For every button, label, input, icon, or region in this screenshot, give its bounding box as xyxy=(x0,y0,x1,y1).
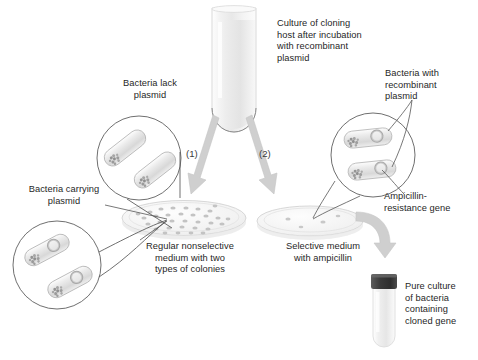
label-ampicillin-resistance-gene: Ampicillin- resistance gene xyxy=(384,191,478,214)
step-label-one: (1) xyxy=(186,148,198,159)
step-label-two: (2) xyxy=(259,148,271,159)
label-nonselective-medium: Regular nonselective medium with two typ… xyxy=(122,241,258,276)
figure-canvas: Culture of cloning host after incubation… xyxy=(0,0,478,360)
label-culture-tube: Culture of cloning host after incubation… xyxy=(277,18,397,64)
label-bacteria-lack-plasmid: Bacteria lack plasmid xyxy=(96,78,204,101)
petri-dish-icon xyxy=(122,201,246,240)
label-pure-culture: Pure culture of bacteria containing clon… xyxy=(405,281,478,327)
label-bacteria-with-recombinant-plasmid: Bacteria with recombinant plasmid xyxy=(385,68,478,103)
culture-vial-icon xyxy=(371,274,397,347)
test-tube-icon xyxy=(212,6,256,132)
label-selective-medium: Selective medium with ampicillin xyxy=(268,241,378,264)
label-bacteria-carrying-plasmid: Bacteria carrying plasmid xyxy=(6,184,122,207)
petri-dish-icon xyxy=(257,206,363,240)
